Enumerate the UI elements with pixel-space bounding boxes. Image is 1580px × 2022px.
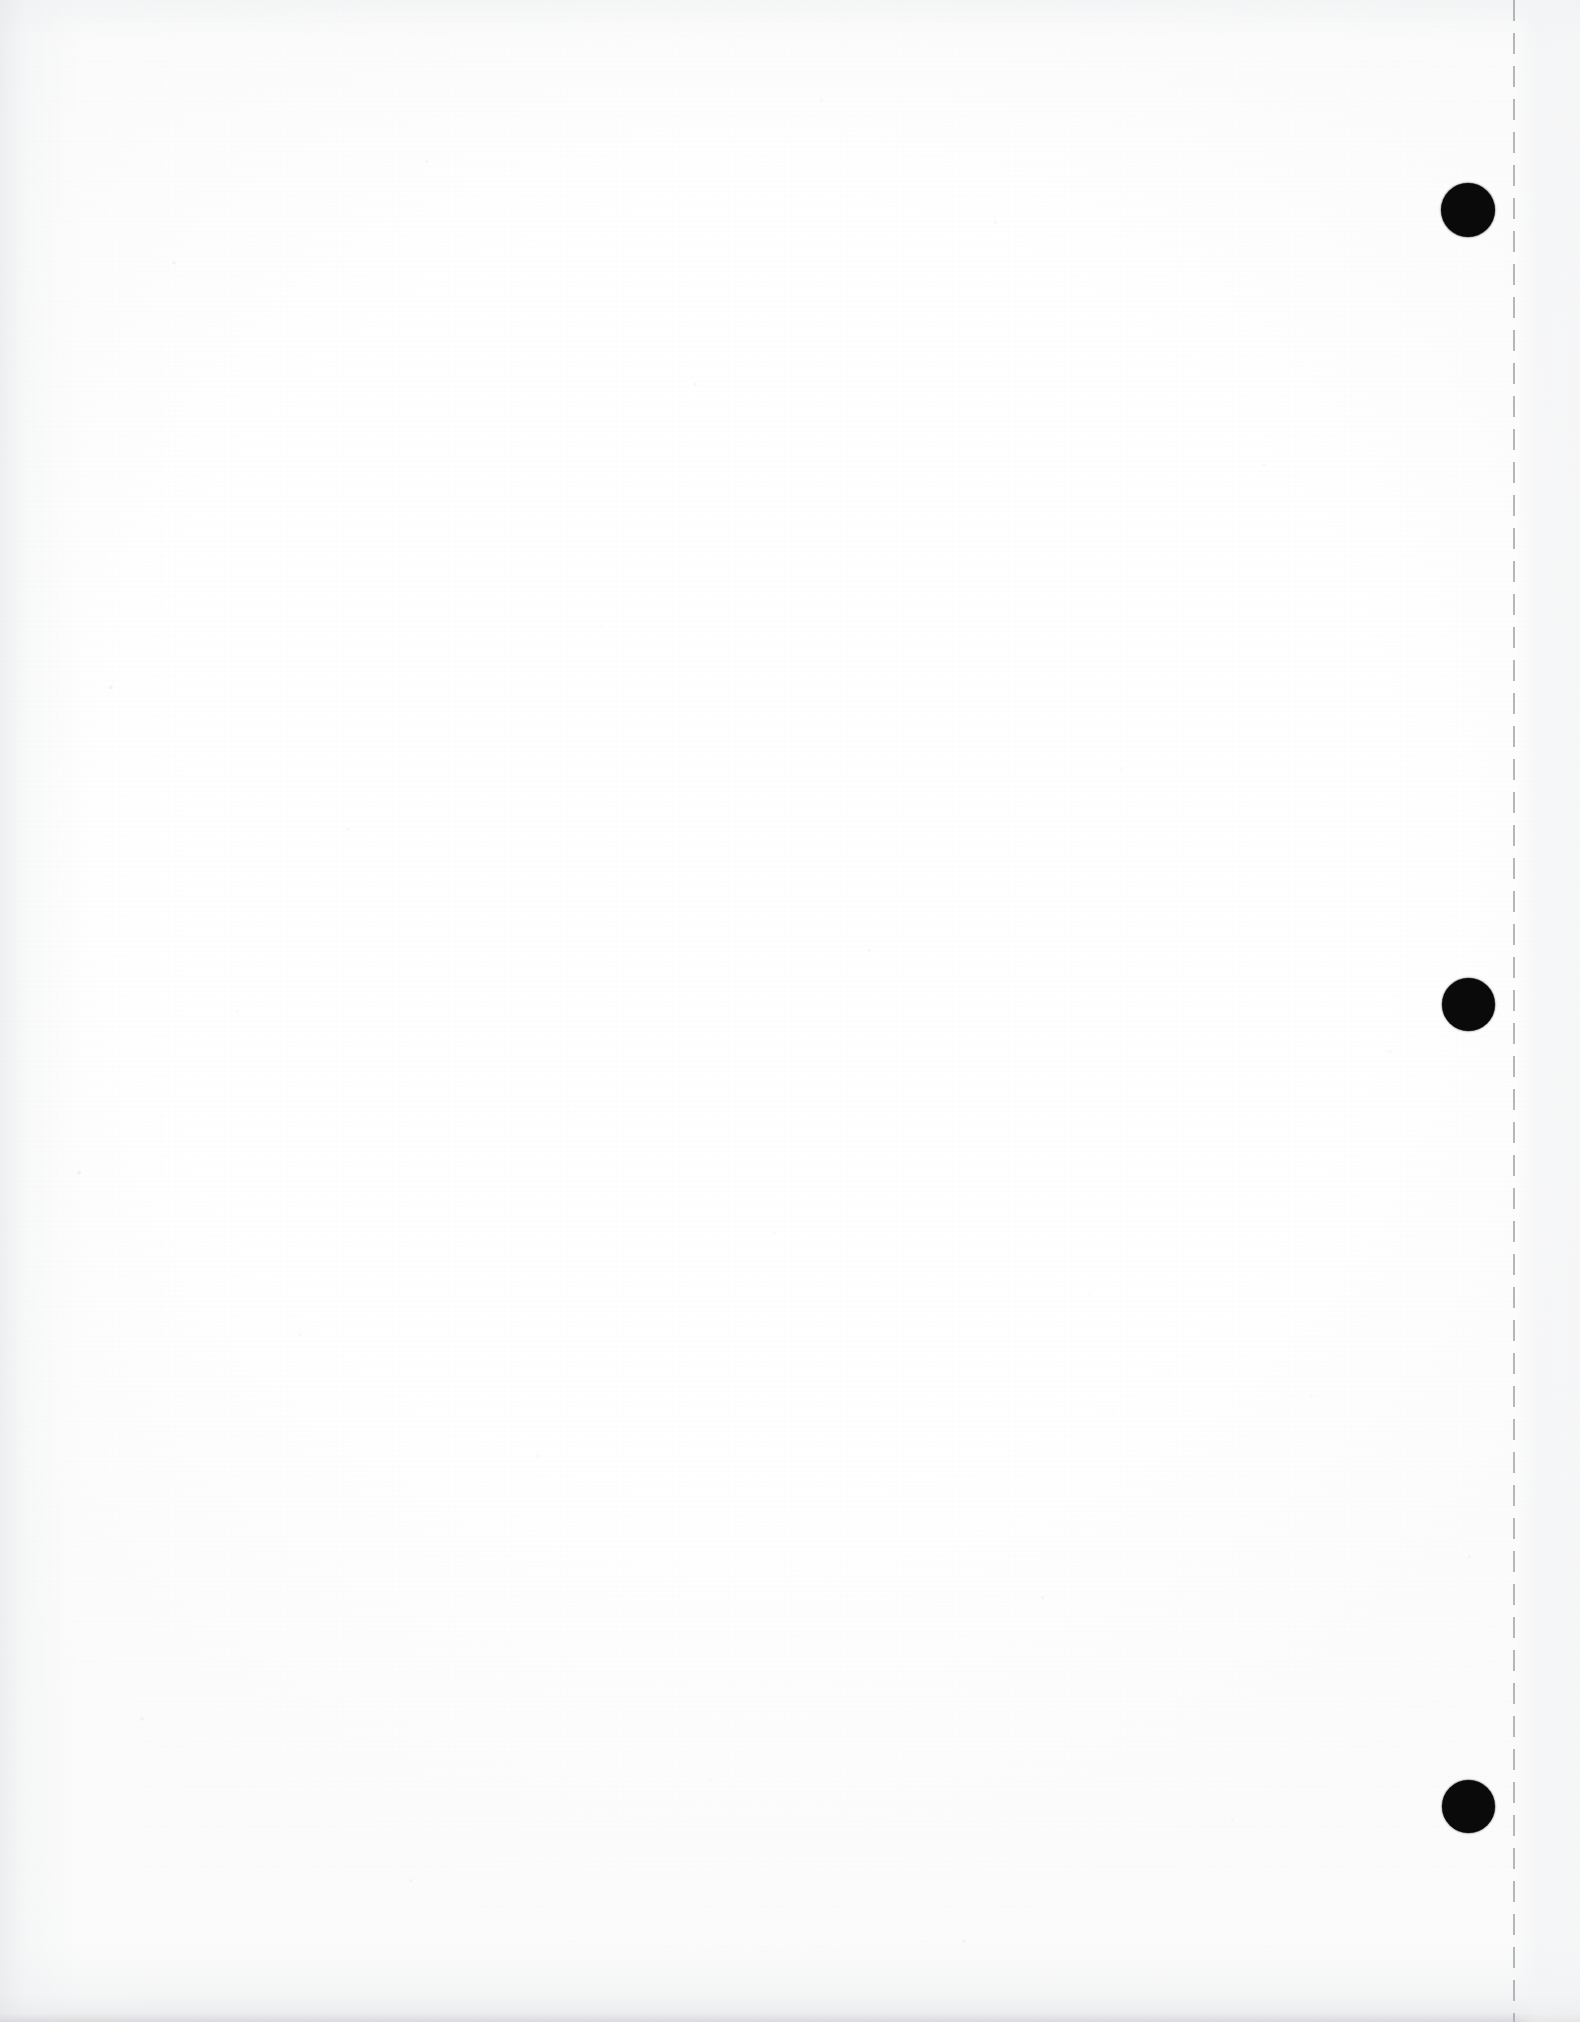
punch-hole-top [1441,183,1495,237]
scanned-page: Blank scanned page with three-hole punch… [0,0,1580,2022]
punch-hole-middle [1442,978,1495,1031]
punch-hole-bottom [1442,1780,1495,1833]
paper-sheet [0,0,1580,2022]
